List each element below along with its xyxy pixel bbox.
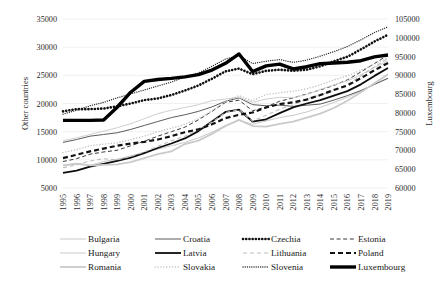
y-axis-right-tick: 75000 bbox=[395, 128, 415, 137]
x-axis-tick: 2000 bbox=[127, 194, 136, 210]
y-axis-right-title: Luxembourg bbox=[424, 81, 434, 126]
y-axis-left-tick: 10000 bbox=[37, 156, 57, 165]
y-axis-left-tick: 30000 bbox=[37, 43, 57, 52]
x-axis-tick: 2014 bbox=[316, 194, 325, 210]
legend-label: Estonia bbox=[358, 234, 386, 244]
legend-label: Poland bbox=[358, 248, 384, 258]
legend-label: Slovenia bbox=[271, 262, 303, 272]
x-axis-tick: 2004 bbox=[181, 194, 190, 210]
y-axis-left-tick: 20000 bbox=[37, 100, 57, 109]
x-axis-tick: 2013 bbox=[303, 194, 312, 210]
y-axis-left-tick: 25000 bbox=[37, 71, 57, 80]
y-axis-right-tick: 70000 bbox=[395, 146, 415, 155]
y-axis-right-tick: 65000 bbox=[395, 165, 415, 174]
x-axis-tick: 2010 bbox=[262, 194, 271, 210]
x-axis-tick: 2011 bbox=[276, 194, 285, 210]
x-axis-tick: 2019 bbox=[384, 194, 393, 210]
x-axis-tick: 2018 bbox=[371, 194, 380, 210]
line-chart: 5000100001500020000250003000035000 60000… bbox=[0, 0, 448, 293]
legend-label: Romania bbox=[88, 262, 121, 272]
legend-label: Slovakia bbox=[183, 262, 215, 272]
legend-label: Hungary bbox=[88, 248, 121, 258]
y-axis-left-title: Other countries bbox=[20, 76, 30, 130]
x-axis-tick: 1995 bbox=[59, 194, 68, 210]
y-axis-right-tick: 85000 bbox=[395, 90, 415, 99]
legend-label: Luxembourg bbox=[358, 262, 406, 272]
y-axis-left-tick: 5000 bbox=[41, 184, 57, 193]
y-axis-right-tick: 100000 bbox=[395, 34, 420, 43]
chart-container: 5000100001500020000250003000035000 60000… bbox=[0, 0, 448, 293]
x-axis-tick: 1999 bbox=[113, 194, 122, 210]
legend-label: Latvia bbox=[183, 248, 206, 258]
x-axis-tick: 2003 bbox=[167, 194, 176, 210]
x-axis-tick: 2009 bbox=[249, 194, 258, 210]
x-axis-tick: 2008 bbox=[235, 194, 244, 210]
x-axis-tick: 2012 bbox=[289, 194, 298, 210]
x-axis-tick: 1998 bbox=[100, 194, 109, 210]
y-axis-right-tick: 95000 bbox=[395, 53, 415, 62]
legend-label: Croatia bbox=[183, 234, 210, 244]
x-axis-tick: 2017 bbox=[357, 194, 366, 210]
x-axis-tick: 1997 bbox=[86, 194, 95, 210]
x-axis-tick: 2015 bbox=[330, 194, 339, 210]
y-axis-right-tick: 60000 bbox=[395, 184, 415, 193]
legend-label: Lithuania bbox=[271, 248, 306, 258]
x-axis-tick: 2002 bbox=[154, 194, 163, 210]
x-axis-tick: 2001 bbox=[140, 194, 149, 210]
x-axis-tick: 1996 bbox=[73, 194, 82, 210]
y-axis-right-tick: 90000 bbox=[395, 71, 415, 80]
x-axis-tick: 2005 bbox=[194, 194, 203, 210]
legend-label: Czechia bbox=[271, 234, 301, 244]
x-axis-tick: 2006 bbox=[208, 194, 217, 210]
y-axis-right-tick: 80000 bbox=[395, 109, 415, 118]
y-axis-right-tick: 105000 bbox=[395, 15, 420, 24]
y-axis-left-tick: 35000 bbox=[37, 15, 57, 24]
legend-label: Bulgaria bbox=[88, 234, 120, 244]
y-axis-left-tick: 15000 bbox=[37, 128, 57, 137]
x-axis-tick: 2016 bbox=[343, 194, 352, 210]
x-axis-tick: 2007 bbox=[222, 194, 231, 210]
